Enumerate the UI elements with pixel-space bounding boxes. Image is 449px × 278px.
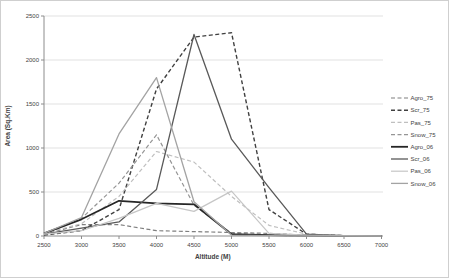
legend-label: Scr_75	[411, 107, 431, 113]
legend-label: Snow_06	[411, 181, 437, 187]
y-tick-label: 2500	[26, 13, 40, 19]
legend-label: Pas_75	[411, 120, 432, 126]
x-tick-label: 2500	[37, 242, 51, 248]
legend-label: Snow_75	[411, 132, 437, 138]
x-tick-label: 7000	[375, 242, 389, 248]
x-axis-title: Altitude (M)	[195, 253, 231, 261]
y-axis-title: Area (Sq.Km)	[4, 105, 12, 146]
x-tick-label: 4500	[187, 242, 201, 248]
x-tick-label: 3500	[112, 242, 126, 248]
legend-label: Agro_06	[411, 144, 434, 150]
line-chart: 0500100015002000250025003000350040004500…	[0, 0, 449, 278]
y-tick-label: 1500	[26, 101, 40, 107]
legend-label: Agro_75	[411, 95, 434, 101]
y-tick-label: 2000	[26, 57, 40, 63]
x-tick-label: 4000	[150, 242, 164, 248]
legend-label: Pas_06	[411, 168, 432, 174]
x-tick-label: 3000	[75, 242, 89, 248]
x-tick-label: 6000	[300, 242, 314, 248]
legend-label: Scr_06	[411, 156, 431, 162]
y-tick-label: 500	[29, 189, 40, 195]
x-tick-label: 6500	[337, 242, 351, 248]
x-tick-label: 5000	[225, 242, 239, 248]
line-chart-svg: 0500100015002000250025003000350040004500…	[1, 1, 448, 277]
y-tick-label: 1000	[26, 145, 40, 151]
x-tick-label: 5500	[262, 242, 276, 248]
